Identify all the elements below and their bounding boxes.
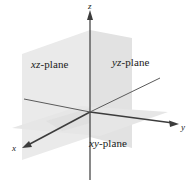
xz-plane-label-rest: -plane	[40, 58, 68, 70]
xy-plane-label-italic: xy	[89, 137, 99, 149]
coordinate-system-figure: xz-plane yz-plane xy-plane x y z	[0, 0, 194, 180]
z-axis-label: z	[88, 1, 92, 11]
y-axis-label: y	[181, 122, 185, 132]
xz-plane-label: xz-plane	[31, 58, 68, 70]
xz-plane-shape	[22, 30, 90, 160]
xy-plane-label-rest: -plane	[99, 137, 127, 149]
xz-plane-label-italic: xz	[31, 58, 40, 70]
yz-plane-label-italic: yz	[112, 56, 121, 68]
coordinate-system-drawing	[0, 0, 194, 180]
x-axis-label: x	[12, 143, 16, 153]
y-axis-arrowhead	[169, 121, 179, 128]
xy-plane-label: xy-plane	[89, 137, 127, 149]
yz-plane-label: yz-plane	[112, 56, 149, 68]
z-axis-arrowhead	[87, 10, 93, 20]
yz-plane-label-rest: -plane	[121, 56, 149, 68]
